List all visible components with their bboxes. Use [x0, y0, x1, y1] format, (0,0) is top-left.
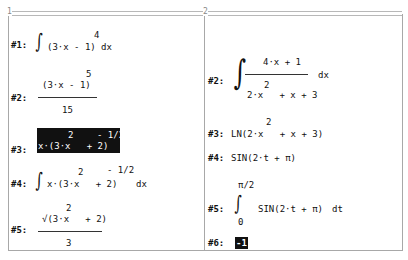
numerator: 4·x + 1	[263, 57, 301, 67]
integral-sign-icon: ∫	[36, 170, 43, 190]
fraction-bar	[38, 97, 97, 98]
numerator: (3·x - 1)	[42, 80, 91, 90]
differential: dx	[101, 42, 112, 52]
expression-label: #3:	[208, 129, 224, 139]
exponent: 5	[86, 69, 91, 79]
inner-exponent: 2	[66, 203, 71, 213]
integrand: x·(3·x + 2)	[47, 179, 117, 189]
function-text: SIN(2·t + π)	[231, 153, 296, 163]
differential: dt	[332, 204, 343, 214]
integral-sign-icon: ∫	[235, 193, 242, 213]
window-2-number: 2	[203, 8, 208, 16]
differential: dx	[318, 70, 329, 80]
selection-highlight: 2 - 1/2 x·(3·x + 2)	[37, 128, 120, 153]
expression-label: #4:	[11, 179, 27, 189]
window-1-title-bar[interactable]	[8, 11, 204, 16]
differential: dx	[136, 179, 147, 189]
integral-sign-icon: ∫	[36, 31, 43, 51]
denominator: 3	[66, 238, 71, 248]
inner-exponent: 2	[68, 130, 73, 140]
window-1-number: 1	[7, 8, 12, 16]
result-cursor[interactable]: -1	[235, 237, 248, 249]
outer-exponent: - 1/2	[97, 130, 124, 140]
expression-label: #5:	[208, 204, 224, 214]
denominator: 15	[62, 105, 73, 115]
fraction-bar	[38, 231, 102, 232]
outer-exponent: - 1/2	[107, 165, 134, 175]
lower-limit: 0	[238, 217, 243, 227]
integrand: (3·x - 1)	[47, 42, 96, 52]
integrand: SIN(2·t + π)	[258, 204, 323, 214]
expression-label: #6:	[208, 238, 224, 248]
expression-label: #1:	[11, 40, 27, 50]
expression-label: #3:	[11, 145, 27, 155]
expression-label: #5:	[11, 225, 27, 235]
base: x·(3·x + 2)	[38, 141, 108, 151]
expression-label: #2:	[11, 93, 27, 103]
numerator: √(3·x + 2)	[42, 214, 107, 224]
window-2-title-bar[interactable]	[204, 11, 402, 16]
inner-exponent: 2	[78, 167, 83, 177]
exponent: 2	[266, 117, 271, 127]
expression-label: #2:	[208, 76, 224, 86]
function-text: LN(2·x + x + 3)	[231, 129, 323, 139]
denominator-exponent: 2	[264, 80, 269, 90]
exponent: 4	[94, 30, 99, 40]
upper-limit: π/2	[238, 180, 254, 190]
fraction-bar	[245, 74, 308, 75]
denominator: 2·x + x + 3	[247, 90, 317, 100]
integral-sign-icon: ∫	[234, 55, 246, 89]
expression-label: #4:	[208, 153, 224, 163]
